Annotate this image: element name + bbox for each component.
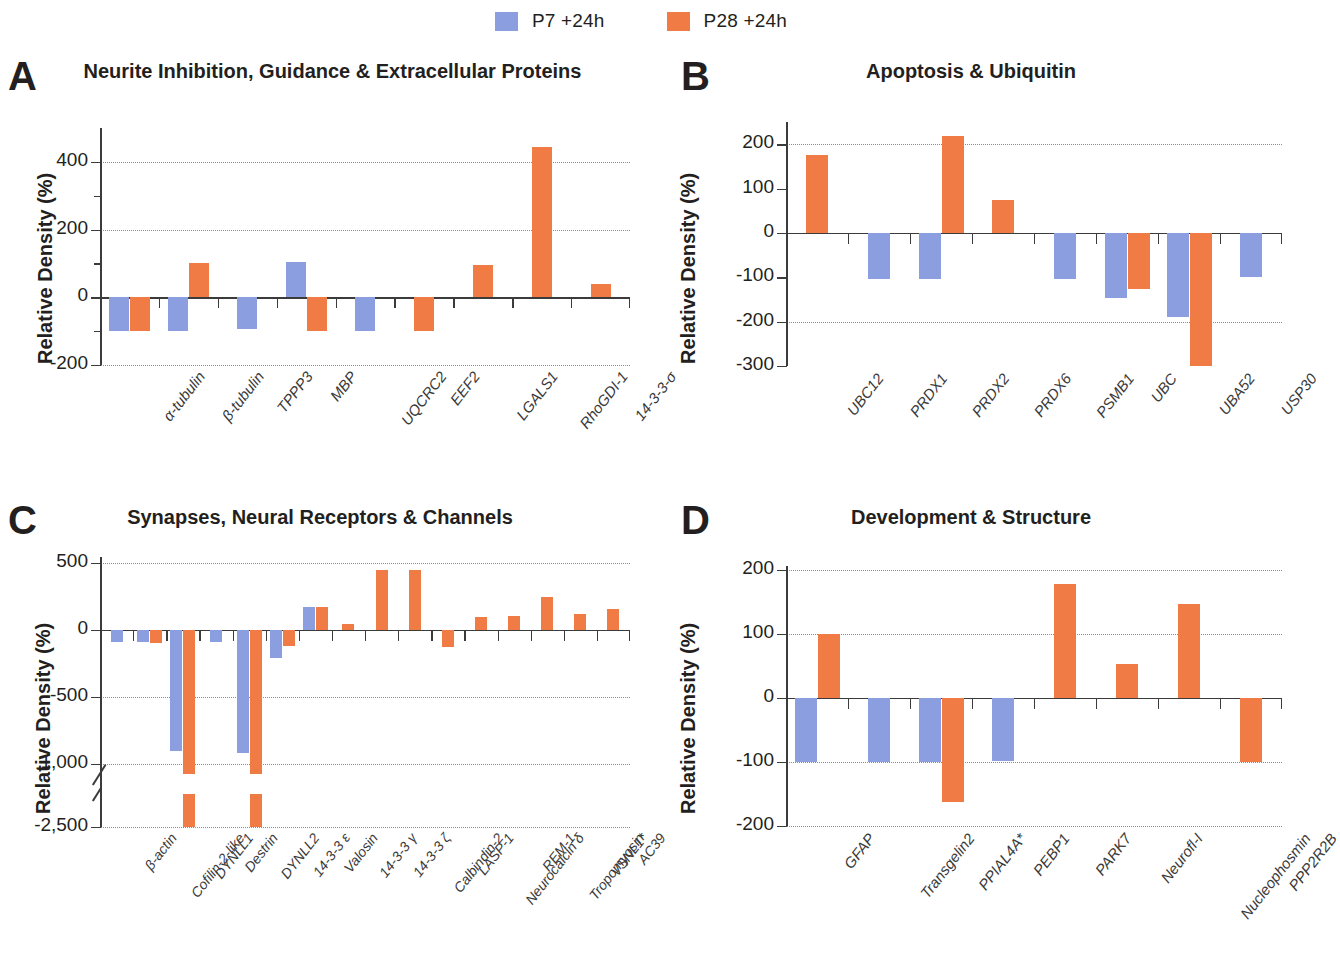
bar-p7	[919, 698, 941, 762]
y-tick-label: 200	[0, 217, 88, 239]
x-tick	[629, 630, 630, 641]
x-category-label: UBC	[1147, 370, 1180, 405]
bar-p7	[1054, 233, 1076, 279]
legend-label-p7: P7 +24h	[532, 10, 605, 32]
bar-p28	[473, 265, 493, 297]
legend-swatch-p28	[667, 12, 690, 31]
panel-b: B Apoptosis & Ubiquitin Relative Density…	[641, 44, 1282, 484]
y-tick-label: -2,500	[0, 814, 88, 836]
bar-p28	[316, 607, 328, 630]
bar-p28	[1128, 233, 1150, 289]
x-category-label: LGALS1	[513, 368, 561, 423]
y-tick-label: 400	[0, 149, 88, 171]
x-tick	[266, 630, 267, 641]
bar-p28	[1190, 233, 1212, 366]
y-tick	[91, 697, 101, 698]
x-tick	[1158, 698, 1159, 709]
x-category-label: RhoGDI-1	[576, 368, 631, 432]
panel-b-plot: 2001000-100-200-300UBC12PRDX1PRDX2PRDX6P…	[641, 44, 1282, 484]
x-tick	[571, 297, 572, 308]
bar-p28	[574, 614, 586, 630]
bar-p7	[355, 297, 375, 331]
x-tick	[564, 630, 565, 641]
x-tick	[1220, 698, 1221, 709]
x-category-label: β-actin	[141, 830, 180, 873]
y-tick-label: 0	[0, 617, 88, 639]
bar-p28	[508, 616, 520, 630]
x-category-label: α-tubulin	[160, 368, 209, 424]
bar-p28	[376, 570, 388, 630]
x-tick	[233, 630, 234, 641]
y-tick-label: 0	[0, 284, 88, 306]
x-tick	[498, 630, 499, 641]
x-category-label: PPIAL4A*	[975, 830, 1029, 893]
x-tick	[531, 630, 532, 641]
gridline	[100, 563, 630, 564]
x-tick	[1034, 233, 1035, 244]
bar-p28	[342, 624, 354, 630]
x-tick	[1096, 233, 1097, 244]
y-tick	[91, 365, 101, 366]
panel-d-plot: 2001000-100-200GFAPTransgelin2PPIAL4A*PE…	[641, 484, 1282, 968]
x-tick	[1281, 698, 1282, 709]
bar-p7	[992, 698, 1014, 761]
bar-p28	[130, 297, 150, 331]
x-tick	[336, 297, 337, 308]
x-tick	[332, 630, 333, 641]
bar-p7	[1105, 233, 1127, 298]
bar-p28	[283, 630, 295, 646]
axis-break-gap	[102, 774, 630, 794]
x-category-label: PRDX6	[1030, 370, 1074, 420]
x-tick	[277, 297, 278, 308]
x-category-label: Transgelin2	[917, 830, 978, 901]
bar-p28	[189, 263, 209, 297]
panel-d: D Development & Structure Relative Densi…	[641, 484, 1282, 968]
y-tick-label: -500	[0, 684, 88, 706]
x-category-label: UBC12	[844, 370, 887, 419]
bar-p7	[168, 297, 188, 331]
gridline	[100, 365, 630, 366]
x-tick	[910, 698, 911, 709]
bar-p7	[868, 698, 890, 762]
y-tick	[777, 366, 787, 367]
y-tick-label: -200	[676, 813, 774, 835]
y-tick	[777, 189, 787, 190]
panel-a-plot: 4002000-200α-tubulinβ-tubulinTPPP3MBPUQC…	[0, 44, 641, 484]
y-tick-label: 1,000	[0, 751, 88, 773]
bar-p7	[137, 630, 149, 642]
x-tick	[910, 233, 911, 244]
bar-p28	[607, 609, 619, 630]
y-tick-minor	[94, 196, 101, 197]
x-tick	[159, 297, 160, 308]
y-tick-label: -100	[676, 264, 774, 286]
bar-p7	[270, 630, 282, 658]
bar-p28	[532, 147, 552, 298]
x-tick	[100, 630, 101, 641]
y-tick-label: 0	[676, 685, 774, 707]
bar-p7	[111, 630, 123, 642]
x-tick	[394, 297, 395, 308]
y-axis-line	[786, 566, 788, 826]
x-category-label: PSMB1	[1093, 370, 1138, 421]
x-tick	[133, 630, 134, 641]
legend-swatch-p7	[495, 12, 518, 31]
y-tick-label: -100	[676, 749, 774, 771]
gridline	[100, 827, 630, 828]
y-tick	[91, 162, 101, 163]
bar-p28	[1116, 664, 1138, 698]
legend: P7 +24h P28 +24h	[0, 0, 1282, 42]
x-tick	[1096, 698, 1097, 709]
bar-p7	[1240, 233, 1262, 277]
y-tick	[91, 230, 101, 231]
y-tick-label: 100	[676, 176, 774, 198]
x-tick	[464, 630, 465, 641]
bar-p7	[210, 630, 222, 642]
x-tick	[100, 297, 101, 308]
y-tick-label: -200	[0, 352, 88, 374]
panel-c-plot: 5000-5001,000-2,500β-actinCofilin-2-like…	[0, 484, 641, 968]
bar-p28	[806, 155, 828, 233]
y-tick-label: 200	[676, 131, 774, 153]
x-tick	[512, 297, 513, 308]
gridline	[786, 570, 1282, 571]
y-tick-minor	[94, 263, 101, 264]
